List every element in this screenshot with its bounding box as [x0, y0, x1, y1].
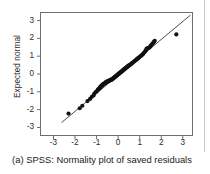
x-tick-label: 2: [153, 138, 169, 147]
x-tick-label: -2: [67, 138, 83, 147]
figure-caption: (a) SPSS: Normality plot of saved residu…: [0, 154, 204, 165]
y-tick-label: 3: [20, 16, 34, 25]
y-axis-ticks: [37, 21, 41, 128]
page-column-rule: [204, 0, 205, 152]
y-tick-label: -3: [20, 122, 34, 131]
x-tick-label: 1: [132, 138, 148, 147]
x-tick-label: 3: [175, 138, 191, 147]
x-tick-label: 0: [110, 138, 126, 147]
x-tick-label: -3: [45, 138, 61, 147]
y-tick-label: 1: [20, 51, 34, 60]
data-point: [66, 111, 70, 115]
y-tick-label: -1: [20, 87, 34, 96]
y-tick-label: -2: [20, 105, 34, 114]
y-tick-label: 2: [20, 33, 34, 42]
normality-plot-figure: Expected normal -3-2-10123 -3-2-10123 (a…: [0, 0, 210, 174]
qq-plot-chart: Expected normal -3-2-10123 -3-2-10123: [0, 0, 200, 150]
data-point: [153, 39, 157, 43]
y-tick-label: 0: [20, 69, 34, 78]
x-tick-label: -1: [89, 138, 105, 147]
data-point: [174, 32, 178, 36]
data-point: [80, 104, 84, 108]
